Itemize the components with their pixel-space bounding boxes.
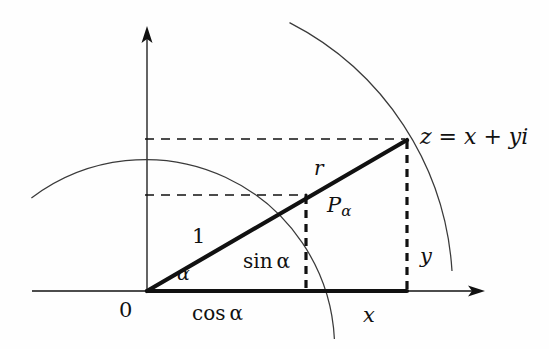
point-p-alpha-label: Pα bbox=[327, 195, 351, 219]
cos-alpha-label: cos α bbox=[192, 303, 243, 323]
angle-alpha-label: α bbox=[177, 264, 190, 283]
x-leg-label: x bbox=[363, 305, 375, 326]
diagram-canvas bbox=[0, 0, 549, 349]
unit-radius-label: 1 bbox=[192, 226, 205, 247]
y-leg-label: y bbox=[420, 246, 432, 267]
point-z-marker bbox=[405, 138, 408, 141]
r-label: r bbox=[314, 158, 324, 178]
origin-label: 0 bbox=[119, 300, 132, 321]
point-p-alpha-marker bbox=[304, 193, 307, 196]
point-p-alpha-base: P bbox=[327, 193, 341, 217]
z-equation-label: z = x + yi bbox=[420, 126, 528, 148]
point-p-alpha-subscript: α bbox=[341, 202, 351, 220]
sin-alpha-label: sin α bbox=[243, 251, 290, 271]
math-diagram: 0 α 1 r Pα sin α cos α x y z = x + yi bbox=[0, 0, 549, 349]
